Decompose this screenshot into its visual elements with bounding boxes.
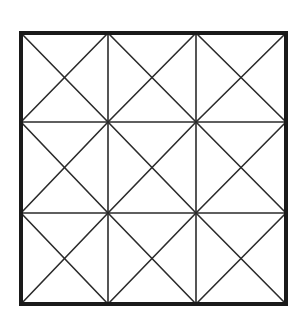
grid-diagonal-diagram [0, 0, 307, 321]
background [0, 0, 307, 321]
